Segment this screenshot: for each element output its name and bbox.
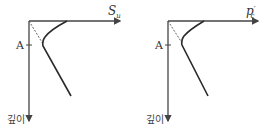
left-x-axis-label: Su bbox=[108, 4, 121, 20]
left-a-label: A bbox=[15, 39, 25, 52]
left-y-axis-label: 깊이 bbox=[7, 114, 25, 125]
right-dashed-line bbox=[168, 21, 182, 43]
right-profile-curve bbox=[182, 21, 208, 96]
right-y-axis-label: 깊이 bbox=[146, 114, 164, 125]
left-dashed-line bbox=[29, 21, 43, 44]
left-panel: A Su 깊이 bbox=[7, 4, 121, 125]
left-profile-curve bbox=[43, 21, 71, 96]
right-a-label: A bbox=[154, 39, 164, 52]
diagram-canvas: A Su 깊이 A p′c 깊이 bbox=[0, 0, 263, 130]
right-x-axis-label: p′c bbox=[246, 4, 256, 20]
right-panel: A p′c 깊이 bbox=[146, 4, 258, 125]
